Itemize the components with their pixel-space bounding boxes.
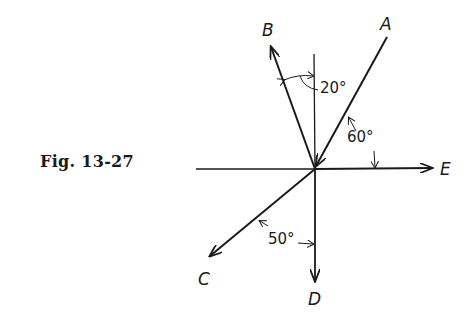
vector-b xyxy=(271,47,315,169)
vertical-reference-line xyxy=(314,54,315,169)
label-b: B xyxy=(262,20,274,40)
label-e: E xyxy=(440,159,451,179)
angle-leader-50-c xyxy=(260,221,268,226)
angle-leader-60-e xyxy=(374,151,375,167)
angle-label-60: 60° xyxy=(347,128,374,146)
angle-label-20: 20° xyxy=(320,79,347,97)
angle-leader-50-d xyxy=(298,243,313,244)
angle-leader-20 xyxy=(300,76,318,90)
angle-arc-20 xyxy=(284,76,313,81)
label-c: C xyxy=(198,269,210,289)
vector-a xyxy=(316,37,387,166)
vector-diagram: 20° 60° 50° B A E C D xyxy=(0,0,475,328)
vector-e xyxy=(315,168,432,169)
label-a: A xyxy=(379,14,392,34)
label-d: D xyxy=(308,289,321,309)
angle-label-50: 50° xyxy=(268,230,295,248)
